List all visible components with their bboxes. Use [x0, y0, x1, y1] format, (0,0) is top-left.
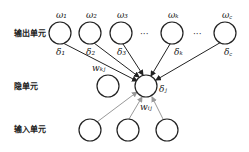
output-node-3 [110, 22, 132, 44]
hidden-node-j [135, 75, 157, 97]
output-node-k [161, 22, 183, 44]
input-node-3 [156, 119, 178, 141]
backprop-diagram: 输出单元 隐单元 输入单元 ω₁ δ₁ ω₂ δ₂ ω₃ δ₃ ··· ωₖ δ… [0, 0, 249, 152]
output-delta-3: δ₃ [117, 47, 126, 57]
output-unit: ω꜀ δ꜀ [214, 10, 236, 57]
output-delta-1: δ₁ [56, 47, 65, 57]
output-node-c [214, 22, 236, 44]
output-delta-2: δ₂ [86, 47, 95, 57]
hidden-node-other [97, 75, 119, 97]
output-unit: ω₃ δ₃ [110, 10, 132, 57]
output-omega-1: ω₁ [56, 10, 67, 20]
edge-i3-hj [152, 97, 163, 119]
output-node-2 [79, 22, 101, 44]
weight-wij-label: wᵢⱼ [140, 102, 153, 112]
hidden-delta-j: δⱼ [159, 84, 167, 94]
output-node-1 [49, 22, 71, 44]
input-node-2 [117, 119, 139, 141]
input-row-label: 输入单元 [14, 124, 46, 134]
output-omega-3: ω₃ [117, 10, 128, 20]
edge-ok-hj [151, 44, 170, 76]
edge-oc-hj [156, 41, 223, 80]
output-row-label: 输出单元 [14, 28, 46, 38]
output-unit: ω₁ δ₁ [49, 10, 71, 57]
ellipsis-1: ··· [140, 29, 149, 39]
output-unit: ω₂ δ₂ [79, 10, 101, 57]
ellipsis-2: ··· [193, 29, 202, 39]
output-delta-k: δₖ [174, 47, 183, 57]
output-delta-c: δ꜀ [224, 47, 233, 57]
output-omega-k: ωₖ [168, 10, 179, 20]
edge-i1-hj [97, 92, 137, 122]
hidden-row-label: 隐单元 [14, 81, 38, 91]
output-unit: ωₖ δₖ [161, 10, 183, 57]
output-omega-c: ω꜀ [222, 10, 233, 20]
output-omega-2: ω₂ [86, 10, 97, 20]
input-node-1 [79, 119, 101, 141]
weight-wkj-label: wₖⱼ [92, 63, 106, 73]
